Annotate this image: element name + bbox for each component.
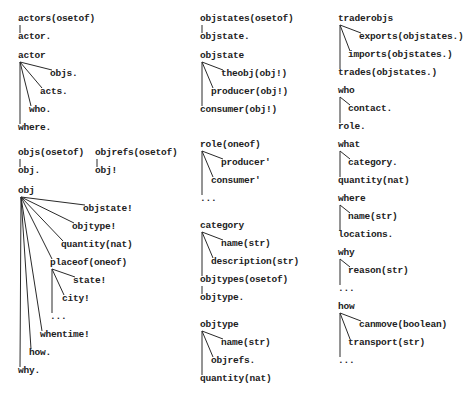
node-objrefs-root: objrefs(osetof) bbox=[95, 148, 178, 158]
node-why-reason: reason(str) bbox=[348, 266, 409, 276]
node-role-more: ... bbox=[200, 194, 217, 204]
node-how-root: how bbox=[338, 302, 355, 312]
node-objstates-child: objstate. bbox=[200, 32, 250, 42]
node-objtypes-child: objtype. bbox=[200, 293, 244, 303]
node-where-locations: locations. bbox=[338, 230, 393, 240]
node-placeof-city: city! bbox=[62, 294, 90, 304]
node-role-root: role(oneof) bbox=[200, 140, 261, 150]
node-why-more: ... bbox=[338, 284, 355, 294]
node-obj-objtype: objtype! bbox=[72, 222, 116, 232]
node-objstate-consumer: consumer(obj!) bbox=[200, 105, 277, 115]
node-role-producer: producer' bbox=[221, 158, 271, 168]
node-objstate-producer: producer(obj!) bbox=[211, 87, 288, 97]
node-how-more: ... bbox=[338, 356, 355, 366]
node-why-root: why bbox=[338, 248, 355, 258]
node-who-role: role. bbox=[338, 122, 366, 132]
node-how-canmove: canmove(boolean) bbox=[359, 320, 447, 330]
node-obj-why: why. bbox=[18, 366, 40, 376]
node-category-description: description(str) bbox=[211, 257, 299, 267]
node-obj-placeof: placeof(oneof) bbox=[50, 258, 127, 268]
node-who-root: who bbox=[338, 86, 355, 96]
node-category-name: name(str) bbox=[221, 239, 271, 249]
node-objtype-root: objtype bbox=[200, 320, 239, 330]
node-where-root: where bbox=[338, 194, 366, 204]
node-actor-objs: objs. bbox=[50, 69, 78, 79]
node-what-category: category. bbox=[348, 158, 398, 168]
node-role-consumer: consumer' bbox=[211, 176, 261, 186]
node-obj-objstate: objstate! bbox=[83, 204, 133, 214]
node-traderobjs-root: traderobjs bbox=[338, 14, 393, 24]
node-objtype-objrefs: objrefs. bbox=[211, 356, 255, 366]
node-how-transport: transport(str) bbox=[348, 338, 425, 348]
node-actor-who: who. bbox=[29, 105, 51, 115]
node-objtype-name: name(str) bbox=[221, 338, 271, 348]
node-traderobjs-trades: trades(objstates.) bbox=[338, 68, 437, 78]
node-objstate-theobj: theobj(obj!) bbox=[221, 69, 287, 79]
node-actor-where: where. bbox=[18, 123, 51, 133]
node-actor-root: actor bbox=[18, 51, 46, 61]
node-what-root: what bbox=[338, 140, 360, 150]
node-objs-child: obj. bbox=[18, 166, 40, 176]
node-category-root: category bbox=[200, 221, 244, 231]
node-who-contact: contact. bbox=[348, 104, 392, 114]
node-where-name: name(str) bbox=[348, 212, 398, 222]
node-actor-ref: actor. bbox=[18, 32, 51, 42]
node-traderobjs-imports: imports(objstates.) bbox=[348, 50, 453, 60]
node-obj-how: how. bbox=[29, 348, 51, 358]
node-objrefs-child: obj! bbox=[95, 166, 117, 176]
node-traderobjs-exports: exports(objstates.) bbox=[359, 32, 464, 42]
node-what-quantity: quantity(nat) bbox=[338, 176, 410, 186]
node-placeof-state: state! bbox=[73, 276, 106, 286]
node-objs-root: objs(osetof) bbox=[18, 148, 84, 158]
node-placeof-more: ... bbox=[50, 312, 67, 322]
node-actor-acts: acts. bbox=[40, 87, 68, 97]
node-category-objtypes: objtypes(osetof) bbox=[200, 275, 288, 285]
node-obj-quantity: quantity(nat) bbox=[61, 240, 133, 250]
node-objtype-quantity: quantity(nat) bbox=[200, 374, 272, 384]
node-objstates-root: objstates(osetof) bbox=[200, 14, 294, 24]
node-obj-whentime: whentime! bbox=[40, 330, 90, 340]
node-objstate-root: objstate bbox=[200, 51, 244, 61]
node-obj-root: obj bbox=[18, 186, 35, 196]
node-actors-root: actors(osetof) bbox=[18, 14, 95, 24]
schema-diagram: actors(osetof) actor. actor objs. acts. … bbox=[0, 0, 472, 400]
